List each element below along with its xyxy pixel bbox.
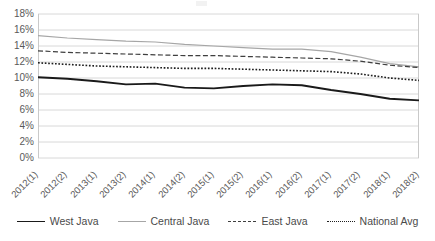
legend-item[interactable]: West Java bbox=[17, 216, 99, 227]
legend-label: East Java bbox=[261, 216, 307, 227]
cropped-title-artifact bbox=[196, 1, 207, 6]
y-axis-tick-label: 16% bbox=[14, 25, 34, 35]
legend-label: Central Java bbox=[151, 216, 210, 227]
legend-swatch-icon bbox=[327, 221, 355, 222]
x-axis-tick-label: 2018(2) bbox=[390, 169, 420, 199]
y-axis-tick-label: 4% bbox=[20, 121, 34, 131]
legend-item[interactable]: National Avg bbox=[327, 216, 419, 227]
x-axis-tick-label: 2018(1) bbox=[361, 169, 391, 199]
y-axis: 18%16%14%12%10%8%6%4%2%0% bbox=[0, 14, 34, 158]
x-axis-tick-label: 2014(2) bbox=[156, 169, 186, 199]
y-axis-tick-label: 10% bbox=[14, 73, 34, 83]
legend-item[interactable]: East Java bbox=[228, 216, 307, 227]
x-axis-tick-label: 2017(2) bbox=[332, 169, 362, 199]
legend-swatch-icon bbox=[17, 221, 45, 222]
x-axis-tick-label: 2013(2) bbox=[97, 169, 127, 199]
legend-swatch-icon bbox=[118, 221, 146, 222]
legend-swatch-icon bbox=[228, 221, 256, 222]
series-line bbox=[38, 77, 419, 100]
y-axis-tick-label: 2% bbox=[20, 137, 34, 147]
x-axis-tick-label: 2013(1) bbox=[68, 169, 98, 199]
x-axis-tick-label: 2015(1) bbox=[185, 169, 215, 199]
x-axis-tick-label: 2012(2) bbox=[39, 169, 69, 199]
poverty-rate-line-chart: 18%16%14%12%10%8%6%4%2%0% 2012(1)2012(2)… bbox=[0, 0, 435, 241]
legend-label: National Avg bbox=[360, 216, 419, 227]
y-axis-tick-label: 8% bbox=[20, 89, 34, 99]
series-lines bbox=[38, 14, 419, 158]
plot-area bbox=[38, 14, 419, 158]
x-axis-tick-label: 2014(1) bbox=[127, 169, 157, 199]
x-axis-tick-label: 2016(1) bbox=[244, 169, 274, 199]
x-axis-tick-label: 2012(1) bbox=[9, 169, 39, 199]
y-axis-tick-label: 12% bbox=[14, 57, 34, 67]
series-line bbox=[38, 36, 419, 67]
legend-label: West Java bbox=[50, 216, 99, 227]
y-axis-tick-label: 18% bbox=[14, 9, 34, 19]
x-axis-tick-label: 2015(2) bbox=[215, 169, 245, 199]
y-axis-tick-label: 6% bbox=[20, 105, 34, 115]
series-line bbox=[38, 51, 419, 68]
legend-item[interactable]: Central Java bbox=[118, 216, 210, 227]
y-axis-tick-label: 14% bbox=[14, 41, 34, 51]
x-axis: 2012(1)2012(2)2013(1)2013(2)2014(1)2014(… bbox=[38, 160, 419, 204]
x-axis-tick-label: 2016(2) bbox=[273, 169, 303, 199]
chart-legend: West JavaCentral JavaEast JavaNational A… bbox=[0, 209, 435, 233]
x-axis-tick-label: 2017(1) bbox=[303, 169, 333, 199]
y-axis-tick-label: 0% bbox=[20, 153, 34, 163]
series-line bbox=[38, 63, 419, 81]
